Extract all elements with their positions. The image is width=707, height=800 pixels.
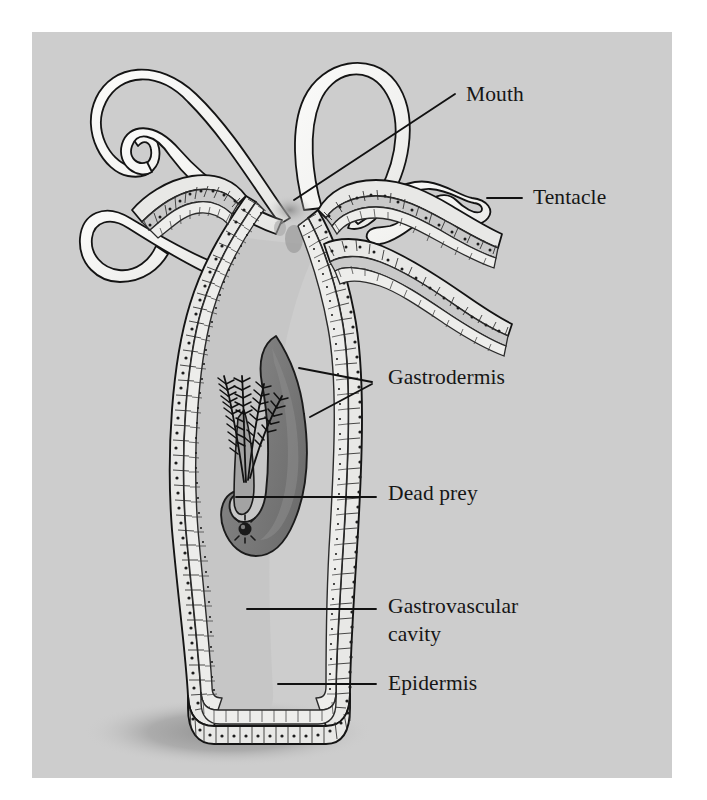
label-gastrovascular: Gastrovascular [388, 594, 518, 618]
label-dead-prey: Dead prey [388, 481, 478, 505]
figure-page: Mouth Tentacle Gastrodermis Dead prey Ga… [0, 0, 707, 800]
diagram-panel: Mouth Tentacle Gastrodermis Dead prey Ga… [32, 32, 672, 778]
label-tentacle: Tentacle [533, 185, 606, 209]
label-group: Mouth Tentacle Gastrodermis Dead prey Ga… [388, 82, 606, 695]
body-wall-right [298, 210, 362, 726]
label-epidermis: Epidermis [388, 671, 477, 695]
label-gastrodermis: Gastrodermis [388, 365, 505, 389]
label-mouth: Mouth [466, 82, 524, 106]
hydra-diagram-svg: Mouth Tentacle Gastrodermis Dead prey Ga… [32, 32, 672, 778]
label-cavity: cavity [388, 622, 441, 646]
